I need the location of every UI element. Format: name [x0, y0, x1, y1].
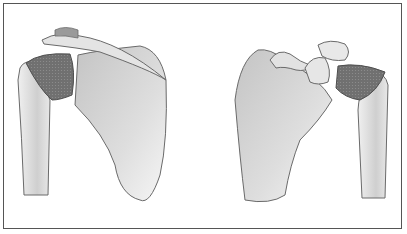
shoulder-illustration — [0, 0, 407, 234]
anterior-view — [235, 41, 388, 201]
posterior-view — [18, 28, 166, 201]
